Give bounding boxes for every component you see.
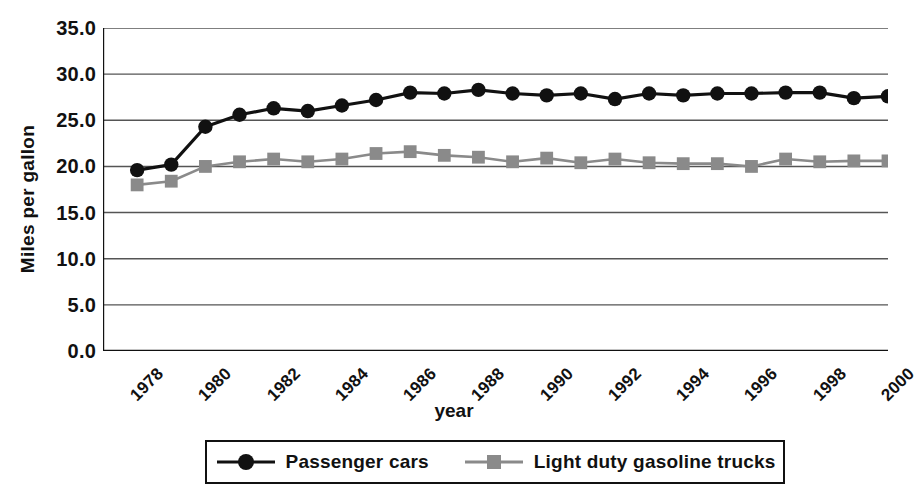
- x-axis-title: year: [0, 400, 908, 422]
- square-marker-icon: [463, 452, 525, 472]
- circle-marker-icon: [215, 452, 277, 472]
- legend-item-light-duty-gasoline-trucks[interactable]: Light duty gasoline trucks: [463, 451, 776, 473]
- legend-item-passenger-cars[interactable]: Passenger cars: [215, 451, 429, 473]
- legend-label-light-duty-gasoline-trucks: Light duty gasoline trucks: [534, 451, 776, 473]
- chart-legend: Passenger cars Light duty gasoline truck…: [205, 440, 785, 484]
- legend-label-passenger-cars: Passenger cars: [286, 451, 429, 473]
